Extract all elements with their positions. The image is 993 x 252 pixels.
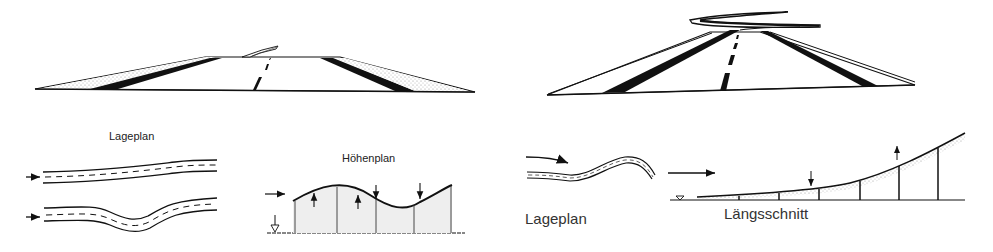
lageplan-right-label: Lageplan [525, 210, 587, 227]
left-perspective-road [35, 46, 475, 92]
hoehenplan-label: Höhenplan [342, 152, 395, 164]
lageplan-left-curved-road [26, 198, 217, 232]
lageplan-right-s-curve [526, 157, 655, 181]
lageplan-left-straight-road [26, 160, 217, 183]
hoehenplan-profile [265, 183, 465, 233]
diagram-canvas [0, 0, 993, 252]
right-perspective-road [547, 12, 915, 95]
lageplan-left-label: Lageplan [109, 130, 154, 142]
laengsschnitt-label: Längsschnitt [724, 205, 808, 222]
laengsschnitt-profile [668, 133, 965, 200]
